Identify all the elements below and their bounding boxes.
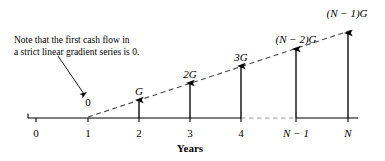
axis-tick-marks xyxy=(36,118,348,122)
linear-gradient-cash-flow-diagram: Note that the first cash flow in a stric… xyxy=(0,0,385,161)
note-line-1: Note that the first cash flow in xyxy=(14,35,139,47)
axis-title-years: Years xyxy=(177,143,203,154)
cash-flow-label-N-1G: (N − 1)G xyxy=(326,8,367,19)
cash-flow-label-G: G xyxy=(135,86,143,97)
axis-tick-label-1: 1 xyxy=(85,128,91,139)
zero-cash-flow-label: 0 xyxy=(85,97,91,108)
note-annotation: Note that the first cash flow in a stric… xyxy=(14,35,139,58)
axis-tick-label-2: 2 xyxy=(136,128,142,139)
time-axis-baseline xyxy=(28,114,358,119)
axis-tick-label-N: N xyxy=(344,128,351,139)
axis-tick-label-N-minus-1: N − 1 xyxy=(283,128,309,139)
axis-tick-label-0: 0 xyxy=(33,128,39,139)
cash-flow-label-2G: 2G xyxy=(183,69,196,80)
axis-tick-label-4: 4 xyxy=(238,128,244,139)
note-line-2: a strict linear gradient series is 0. xyxy=(14,47,139,59)
cash-flow-label-3G: 3G xyxy=(234,52,247,63)
axis-tick-label-3: 3 xyxy=(187,128,193,139)
note-leader-arrow xyxy=(58,56,84,94)
cash-flow-label-N-2G: (N − 2)G xyxy=(275,34,316,45)
cash-flow-arrows xyxy=(139,33,348,118)
